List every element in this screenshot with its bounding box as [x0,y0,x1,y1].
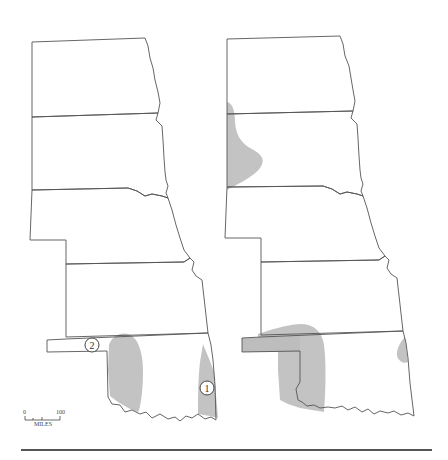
state-north-dakota [227,36,355,114]
marker-1-label: 1 [205,383,210,394]
state-nebraska [225,186,385,262]
state-north-dakota [32,38,160,117]
marker-2-label: 2 [90,340,95,351]
shaded-area-east-edge [397,337,408,363]
right-map [225,36,414,416]
shaded-area-west-oklahoma [108,333,143,412]
bottom-rule-divider [21,449,432,451]
maps-figure: 1 2 0 100 MILES [0,0,448,460]
scale-bar: 0 100 MILES [23,409,65,427]
state-nebraska [30,188,190,264]
scale-end-label: 100 [56,409,65,415]
shaded-area-panhandle [242,336,300,352]
state-south-dakota [32,113,168,198]
state-kansas [261,256,403,335]
marker-1: 1 [200,381,214,395]
left-map: 1 2 [30,38,218,421]
scale-unit-label: MILES [34,421,52,427]
marker-2: 2 [85,338,99,352]
state-kansas [66,258,208,337]
shaded-area-west-dakotas [227,102,263,190]
scale-start-label: 0 [23,409,26,415]
